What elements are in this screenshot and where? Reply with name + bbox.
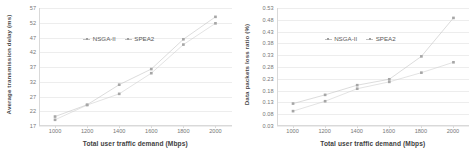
data-point-marker <box>355 87 358 90</box>
y-tick-label: 0.48 <box>263 17 274 23</box>
data-point-marker <box>86 104 89 107</box>
y-tick-label: 0.53 <box>263 5 274 11</box>
y-tick-label: 0.43 <box>263 29 274 35</box>
data-point-marker <box>452 17 455 20</box>
x-tick-label: 1200 <box>318 128 330 134</box>
data-point-marker <box>387 81 390 84</box>
y-tick-label: 0.08 <box>263 111 274 117</box>
x-tick-mark <box>357 125 358 128</box>
x-tick-label: 1400 <box>350 128 362 134</box>
series-lines-right <box>277 8 470 126</box>
x-tick-label: 2000 <box>447 128 459 134</box>
y-tick-label: 42 <box>30 49 36 55</box>
y-tick-label: 0.18 <box>263 88 274 94</box>
data-point-marker <box>355 84 358 87</box>
x-axis-title-right: Total user traffic demand (Mbps) <box>277 140 470 147</box>
legend-marker-nsga-ii-icon <box>325 39 332 40</box>
x-tick-mark <box>453 125 454 128</box>
data-point-marker <box>323 100 326 103</box>
data-point-marker <box>214 22 217 25</box>
x-tick-label: 1800 <box>415 128 427 134</box>
data-point-marker <box>118 83 121 86</box>
legend-item-nsga-ii-left: NSGA-II <box>83 36 116 42</box>
plot-area-left: NSGA-II SPEA2 <box>39 8 232 126</box>
y-tick-label: 37 <box>30 64 36 70</box>
y-tick-label: 0.03 <box>263 123 274 129</box>
data-point-marker <box>420 55 423 58</box>
y-tick-label: 0.38 <box>263 40 274 46</box>
x-tick-mark <box>55 125 56 128</box>
data-point-marker <box>387 78 390 81</box>
y-tick-label: 0.23 <box>263 76 274 82</box>
data-point-marker <box>118 93 121 96</box>
y-axis-title-right: Data packets loss ratio (%) <box>240 0 254 128</box>
y-tick-label: 27 <box>30 94 36 100</box>
legend-item-nsga-ii-right: NSGA-II <box>325 36 358 42</box>
data-point-marker <box>291 110 294 113</box>
x-tick-mark <box>215 125 216 128</box>
data-point-marker <box>150 68 153 71</box>
y-axis-tick-labels-right: 0.030.080.130.180.230.280.330.380.430.48… <box>253 8 275 126</box>
gridline <box>277 126 470 127</box>
y-tick-label: 52 <box>30 20 36 26</box>
data-point-marker <box>54 115 57 118</box>
x-tick-mark <box>325 125 326 128</box>
x-axis-tick-labels-right: 100012001400160018002000 <box>277 128 470 138</box>
chart-panel-average-transmission-delay: Average transmission delay (ms) 17222732… <box>0 0 238 166</box>
x-tick-mark <box>389 125 390 128</box>
x-tick-label: 1000 <box>286 128 298 134</box>
data-point-marker <box>54 119 57 122</box>
legend-marker-spea2-icon <box>125 39 132 40</box>
x-tick-label: 1600 <box>145 128 157 134</box>
series-line-nsga-ii <box>293 18 453 104</box>
plot-area-right: NSGA-II SPEA2 <box>277 8 470 126</box>
x-tick-mark <box>151 125 152 128</box>
data-point-marker <box>182 38 185 41</box>
legend-right: NSGA-II SPEA2 <box>325 36 396 42</box>
y-axis-title-left: Average transmission delay (ms) <box>2 0 16 128</box>
x-tick-label: 1000 <box>49 128 61 134</box>
legend-label-nsga-ii: NSGA-II <box>334 36 357 42</box>
legend-label-spea2: SPEA2 <box>134 36 154 42</box>
legend-item-spea2-right: SPEA2 <box>366 36 395 42</box>
y-tick-label: 0.33 <box>263 52 274 58</box>
data-point-marker <box>182 43 185 46</box>
gridline <box>39 126 232 127</box>
x-tick-label: 1600 <box>383 128 395 134</box>
data-point-marker <box>452 61 455 64</box>
y-axis-tick-labels-left: 172227323742475257 <box>15 8 37 126</box>
series-line-spea2 <box>293 62 453 111</box>
x-tick-mark <box>119 125 120 128</box>
legend-left: NSGA-II SPEA2 <box>83 36 154 42</box>
data-point-marker <box>291 102 294 105</box>
y-tick-label: 32 <box>30 79 36 85</box>
data-point-marker <box>214 16 217 19</box>
y-tick-label: 47 <box>30 35 36 41</box>
y-tick-label: 22 <box>30 108 36 114</box>
x-tick-mark <box>293 125 294 128</box>
y-tick-label: 0.28 <box>263 64 274 70</box>
chart-panel-data-packets-loss-ratio: Data packets loss ratio (%) 0.030.080.13… <box>238 0 475 166</box>
y-tick-label: 0.13 <box>263 99 274 105</box>
legend-label-nsga-ii: NSGA-II <box>93 36 116 42</box>
legend-marker-nsga-ii-icon <box>83 39 90 40</box>
series-line-nsga-ii <box>55 17 215 117</box>
y-tick-label: 57 <box>30 5 36 11</box>
x-tick-label: 1200 <box>81 128 93 134</box>
x-tick-label: 2000 <box>209 128 221 134</box>
legend-label-spea2: SPEA2 <box>376 36 396 42</box>
x-axis-title-left: Total user traffic demand (Mbps) <box>39 140 232 147</box>
two-panel-line-chart-figure: Average transmission delay (ms) 17222732… <box>0 0 475 166</box>
x-tick-mark <box>183 125 184 128</box>
series-lines-left <box>39 8 232 126</box>
x-tick-mark <box>421 125 422 128</box>
data-point-marker <box>323 94 326 97</box>
x-tick-label: 1400 <box>113 128 125 134</box>
y-tick-label: 17 <box>30 123 36 129</box>
legend-item-spea2-left: SPEA2 <box>125 36 154 42</box>
data-point-marker <box>150 72 153 75</box>
legend-marker-spea2-icon <box>366 39 373 40</box>
x-tick-label: 1800 <box>177 128 189 134</box>
data-point-marker <box>420 71 423 74</box>
x-tick-mark <box>87 125 88 128</box>
